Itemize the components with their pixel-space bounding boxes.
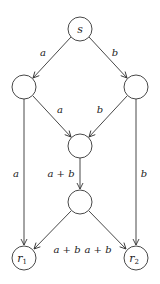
node-middle xyxy=(68,134,92,158)
butterfly-network-diagram: s r1 r2 a b a b a b a + b a + b a + b xyxy=(0,0,160,284)
edge-label-s-left: a xyxy=(40,47,46,58)
edge-right-middle xyxy=(89,96,127,137)
edge-label-middle-lower: a + b xyxy=(47,168,74,179)
edge-left-middle xyxy=(33,96,71,137)
edge-label-left-middle: a xyxy=(57,104,63,115)
edge-s-right xyxy=(89,37,127,78)
edge-s-left xyxy=(33,37,71,78)
node-lower xyxy=(68,190,92,214)
edge-label-right-r2: b xyxy=(141,168,147,179)
node-left xyxy=(12,75,36,99)
edge-label-lower-r1: a + b xyxy=(53,244,80,255)
edge-label-lower-r2: a + b xyxy=(84,244,111,255)
edge-label-left-r1: a xyxy=(13,168,19,179)
edge-label-s-right: b xyxy=(112,47,118,58)
node-s-label: s xyxy=(77,23,83,36)
edge-label-right-middle: b xyxy=(97,104,103,115)
node-right xyxy=(124,75,148,99)
